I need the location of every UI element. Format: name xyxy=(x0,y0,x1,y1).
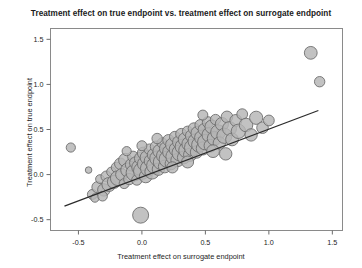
x-tick-label: 1.5 xyxy=(327,238,337,247)
data-point-bubble xyxy=(137,141,147,151)
data-point-bubble xyxy=(122,147,131,156)
x-tick-label: 0.0 xyxy=(137,238,147,247)
x-axis-ticks: -0.50.00.51.01.5 xyxy=(72,231,337,247)
data-point-bubble xyxy=(220,148,232,160)
x-tick-label: 1.0 xyxy=(264,238,274,247)
scatter-chart-figure: Treatment effect on true endpoint vs. tr… xyxy=(0,0,362,268)
x-tick-label: 0.5 xyxy=(200,238,210,247)
data-point-bubble xyxy=(245,129,257,141)
data-point-bubble xyxy=(207,145,220,158)
data-point-bubble xyxy=(304,46,317,59)
data-point-bubble xyxy=(133,207,149,223)
y-tick-label: 0.0 xyxy=(34,170,44,179)
data-point-bubble xyxy=(198,110,208,120)
y-tick-label: 1.0 xyxy=(34,80,44,89)
data-point-bubble xyxy=(263,115,274,126)
data-point-bubble xyxy=(314,77,324,87)
data-point-bubble xyxy=(152,133,162,143)
data-point-bubble xyxy=(85,167,92,174)
plot-area-svg: -0.50.00.51.01.5 -0.50.00.51.01.5 xyxy=(0,0,362,268)
x-tick-label: -0.5 xyxy=(72,238,84,247)
data-point-bubble xyxy=(66,143,75,152)
y-axis-label: Treatment effect on true endpoint xyxy=(25,45,34,220)
x-axis-label: Treatment effect on surrogate endpoint xyxy=(0,252,362,261)
y-tick-label: 1.5 xyxy=(34,35,44,44)
y-tick-label: 0.5 xyxy=(34,125,44,134)
y-axis-ticks: -0.50.00.51.01.5 xyxy=(31,35,50,224)
